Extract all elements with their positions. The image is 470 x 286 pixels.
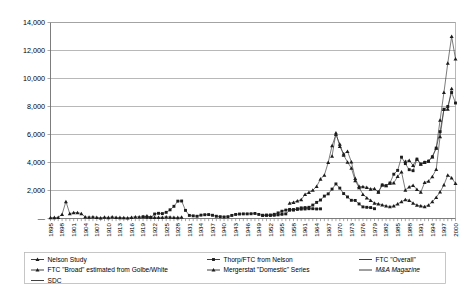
data-point-marker [311,207,314,210]
data-point-marker [434,167,438,171]
data-point-marker [165,211,168,214]
legend-item[interactable]: FTC "Overall" [359,256,416,263]
x-axis-tick-label: 1937 [209,222,216,236]
data-point-marker [60,212,64,216]
x-axis-tick-label: 2000 [452,222,459,236]
data-point-marker [176,200,179,203]
x-axis-labels-group: 1895189819011904190719101913191619191922… [47,222,459,236]
gridlines-group [48,23,456,222]
data-point-marker [454,102,457,105]
legend-item[interactable]: Thorp/FTC from Nelson [207,256,293,264]
data-point-marker [365,206,368,209]
data-point-marker [403,198,407,202]
data-point-marker [296,207,299,210]
data-point-marker [157,212,160,215]
chart-container: —2,0004,0006,0008,00010,00012,00014,000 … [0,0,470,286]
data-point-marker [338,187,341,190]
x-axis-tick-label: 1988 [406,222,413,236]
legend-item[interactable]: SDC [31,277,62,284]
data-point-marker [273,213,276,216]
series-line [51,202,182,218]
data-point-marker [192,214,195,217]
legend-item[interactable]: Nelson Study [31,256,87,264]
data-point-marker [284,209,287,212]
data-point-marker [385,184,388,187]
data-point-marker [307,206,310,209]
series-mergerstat-domestic-series [330,87,454,194]
data-point-marker [388,182,391,185]
data-point-marker [454,182,458,186]
x-axis-tick-label: 1913 [116,222,123,236]
legend-item[interactable]: Mergerstat "Domestic" Series [207,266,310,274]
data-point-marker [257,213,260,216]
data-point-marker [346,149,350,153]
series-line [290,135,456,207]
data-point-marker [450,35,454,39]
data-point-marker [446,61,450,65]
legend-item[interactable]: FTC "Broad" estimated from Golbe/White [31,266,168,273]
data-point-marker [369,206,372,209]
data-point-marker [442,108,445,111]
legend-item[interactable]: M&A Magazine [359,266,420,274]
y-axis-labels-group: —2,0004,0006,0008,00010,00012,00014,000 [23,18,46,223]
x-axis-tick-label: 1928 [174,222,181,236]
x-axis-tick-label: 1952 [267,222,274,236]
data-point-marker [446,173,450,177]
legend-item-label: M&A Magazine [376,266,421,274]
x-axis-tick-label: 1946 [244,222,251,236]
y-axis-tick-label: 4,000 [27,158,45,167]
data-point-marker [311,204,314,207]
data-point-marker [415,203,419,207]
data-point-marker [442,183,446,187]
x-axis-tick-label: 1961 [301,222,308,236]
data-point-marker [269,214,272,217]
x-axis-tick-label: 1964 [313,222,320,236]
data-point-marker [392,173,395,176]
data-point-marker [184,209,187,212]
data-point-marker [242,212,245,215]
x-axis-tick-label: 1985 [394,222,401,236]
data-point-marker [322,173,326,177]
data-point-marker [381,184,384,187]
data-point-marker [412,169,415,172]
x-axis-tick-label: 1934 [197,222,204,236]
data-point-marker [234,213,237,216]
x-axis-tick-label: 1949 [255,222,262,236]
data-point-marker [349,160,353,164]
legend-item-label: SDC [48,277,62,284]
data-point-marker [161,212,164,215]
legend-item-label: Thorp/FTC from Nelson [224,256,294,264]
data-point-marker [300,206,303,209]
x-axis-tick-label: 1916 [128,222,135,236]
data-point-marker [323,195,326,198]
data-point-marker [153,213,156,216]
data-point-marker [327,192,330,195]
data-point-marker [454,57,458,61]
data-point-marker [149,216,152,219]
data-series-group [49,35,458,220]
data-point-marker [169,208,172,211]
data-point-marker [188,214,191,217]
x-axis-tick-label: 1931 [186,222,193,236]
data-point-marker [396,169,399,172]
data-point-marker [253,212,256,215]
data-point-marker [450,91,453,94]
data-point-marker [199,214,202,217]
data-point-marker [334,182,337,185]
data-point-marker [350,199,353,202]
data-point-marker [331,188,334,191]
data-point-marker [284,212,287,215]
data-point-marker [330,154,334,158]
x-axis-tick-label: 1907 [93,222,100,236]
x-axis-tick-label: 1982 [382,222,389,236]
data-point-marker [288,208,291,211]
data-point-marker [280,210,283,213]
chart-legend: Nelson StudyThorp/FTC from NelsonFTC "Ov… [25,253,446,284]
y-axis-tick-label: 6,000 [27,130,45,139]
legend-item-label: FTC "Broad" estimated from Golbe/White [48,266,169,273]
data-point-marker [319,199,322,202]
legend-item-label: Mergerstat "Domestic" Series [224,266,311,274]
series-ftc-broad-estimated-from-golbe-white [288,133,458,209]
data-point-marker [145,216,148,219]
data-point-marker [223,216,226,219]
